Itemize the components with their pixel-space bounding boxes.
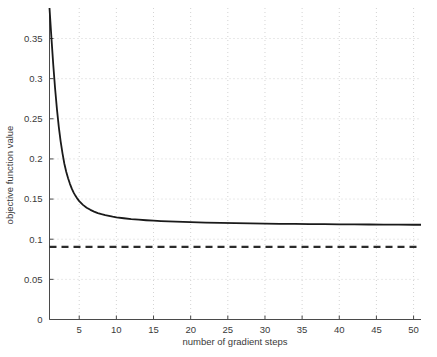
x-tick-label: 15	[148, 324, 159, 335]
figure-canvas: 5101520253035404550 00.050.10.150.20.250…	[0, 0, 437, 357]
y-axis-title: objective function value	[4, 126, 15, 225]
x-tick-label: 35	[297, 324, 308, 335]
x-axis-title: number of gradient steps	[182, 336, 287, 347]
y-tick-label: 0.15	[24, 193, 43, 204]
x-tick-label: 45	[371, 324, 382, 335]
chart-background	[0, 0, 437, 357]
x-tick-label: 5	[77, 324, 82, 335]
x-tick-label: 20	[185, 324, 196, 335]
y-tick-label: 0.2	[29, 153, 42, 164]
y-tick-label: 0.25	[24, 113, 43, 124]
objective-function-convergence-chart: 5101520253035404550 00.050.10.150.20.250…	[0, 0, 437, 357]
x-tick-label: 30	[260, 324, 271, 335]
y-tick-label: 0.3	[29, 73, 42, 84]
x-tick-label: 40	[334, 324, 345, 335]
y-tick-label: 0.05	[24, 274, 43, 285]
y-tick-label: 0.1	[29, 234, 42, 245]
x-tick-label: 25	[223, 324, 234, 335]
x-tick-label: 50	[408, 324, 419, 335]
y-tick-label: 0.35	[24, 33, 43, 44]
y-tick-label: 0	[37, 314, 42, 325]
x-tick-label: 10	[111, 324, 122, 335]
